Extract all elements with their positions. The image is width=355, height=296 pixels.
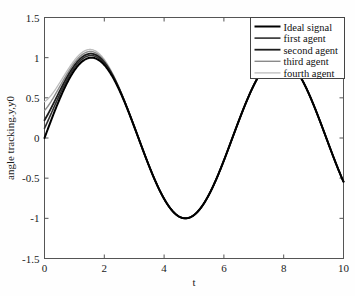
- x-tick-label: 0: [42, 262, 48, 274]
- y-tick-label: 1: [34, 52, 40, 64]
- legend-item-label[interactable]: fourth agent: [284, 68, 335, 79]
- y-tick-label: 1.5: [26, 12, 40, 24]
- x-tick-label: 6: [221, 262, 227, 274]
- x-tick-label: 8: [281, 262, 287, 274]
- y-tick-label: 0: [34, 132, 40, 144]
- chart-canvas: 0246810 1.510.50-0.5-1-1.5 t angle track…: [0, 0, 355, 296]
- x-tick-label: 2: [102, 262, 108, 274]
- y-axis-title: angle tracking.y,y0: [4, 96, 16, 180]
- legend-item-label[interactable]: first agent: [284, 33, 326, 44]
- legend[interactable]: Ideal signalfirst agentsecond agentthird…: [251, 18, 345, 79]
- x-tick-label: 4: [161, 262, 167, 274]
- y-tick-label: 0.5: [26, 92, 40, 104]
- legend-item-label[interactable]: third agent: [284, 56, 329, 67]
- legend-item-label[interactable]: second agent: [284, 45, 339, 56]
- y-tick-label: -1.5: [22, 253, 40, 265]
- y-tick-label: -0.5: [22, 172, 40, 184]
- figure-container: 0246810 1.510.50-0.5-1-1.5 t angle track…: [0, 0, 355, 296]
- y-tick-label: -1: [30, 212, 39, 224]
- x-tick-label: 10: [338, 262, 350, 274]
- x-axis-title: t: [192, 276, 195, 288]
- legend-item-label[interactable]: Ideal signal: [284, 22, 333, 33]
